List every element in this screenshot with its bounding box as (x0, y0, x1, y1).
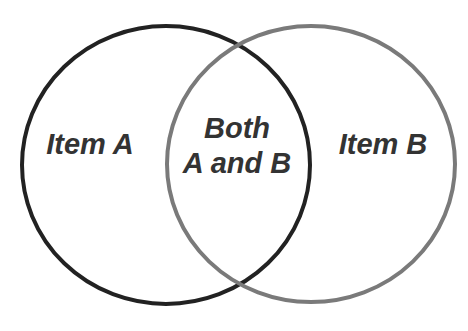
label-intersection-line2: A and B (182, 147, 291, 179)
label-item-b: Item B (339, 128, 428, 160)
venn-diagram: Item A Both A and B Item B (0, 0, 468, 331)
label-item-a: Item A (46, 128, 134, 160)
label-intersection-line1: Both (204, 112, 270, 144)
